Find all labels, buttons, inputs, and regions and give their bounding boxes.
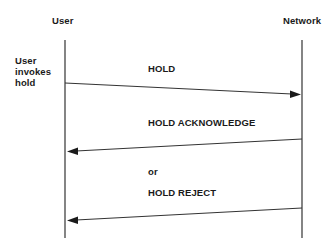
sequence-diagram-canvas — [0, 0, 331, 249]
arrowhead-left-icon — [67, 148, 78, 156]
arrowhead-left-icon — [67, 217, 78, 225]
arrowhead-right-icon — [290, 91, 301, 99]
message-hold-arrow — [65, 83, 301, 98]
message-hold-acknowledge-arrow — [67, 139, 302, 155]
message-hold-reject-arrow — [67, 208, 302, 224]
